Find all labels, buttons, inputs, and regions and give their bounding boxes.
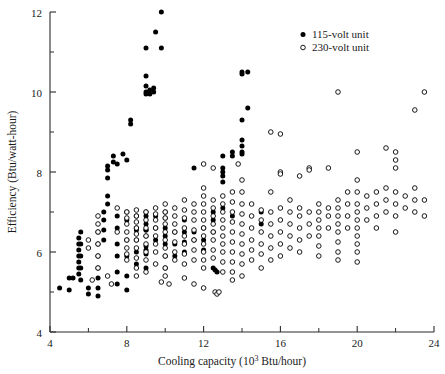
data-point — [221, 218, 226, 223]
data-point — [159, 280, 164, 285]
data-point — [182, 226, 187, 231]
data-point — [249, 226, 254, 231]
data-point — [240, 72, 245, 77]
data-point — [384, 186, 389, 191]
data-point — [153, 226, 158, 231]
data-point — [201, 202, 206, 207]
data-point — [134, 208, 139, 213]
data-point — [109, 282, 114, 287]
data-point — [201, 210, 206, 215]
data-point — [163, 254, 168, 259]
data-point — [144, 270, 149, 275]
data-point — [230, 220, 235, 225]
data-point — [240, 242, 245, 247]
data-point — [125, 252, 130, 257]
data-point — [365, 206, 370, 211]
data-point — [317, 202, 322, 207]
data-point — [230, 154, 235, 159]
data-point — [336, 240, 341, 245]
data-point — [297, 238, 302, 243]
data-point — [278, 172, 283, 177]
data-point — [144, 218, 149, 223]
data-point — [221, 250, 226, 255]
data-point — [153, 262, 158, 267]
x-tick-label: 16 — [275, 337, 287, 349]
data-point — [317, 254, 322, 259]
data-point — [201, 286, 206, 291]
data-point — [317, 244, 322, 249]
data-point — [105, 274, 110, 279]
data-point — [201, 242, 206, 247]
data-point — [76, 236, 81, 241]
data-point — [259, 218, 264, 223]
x-axis-title: Cooling capacity (103 Btu/hour) — [158, 354, 306, 368]
data-point — [355, 178, 360, 183]
data-point — [211, 238, 216, 243]
data-point — [173, 240, 178, 245]
data-point — [86, 238, 91, 243]
data-point — [240, 232, 245, 237]
data-point — [124, 274, 129, 279]
data-point — [259, 230, 264, 235]
data-point — [230, 260, 235, 265]
legend-open-circle-icon — [301, 45, 306, 50]
data-point — [307, 168, 312, 173]
data-point — [240, 252, 245, 257]
data-point — [297, 226, 302, 231]
data-point — [90, 278, 95, 283]
data-point — [78, 278, 83, 283]
data-point — [374, 214, 379, 219]
data-point — [240, 274, 245, 279]
data-point — [192, 238, 197, 243]
data-point — [384, 210, 389, 215]
data-point — [201, 266, 206, 271]
data-point — [403, 206, 408, 211]
data-point — [163, 230, 168, 235]
data-point — [153, 206, 158, 211]
data-point — [134, 266, 139, 271]
data-point — [384, 146, 389, 151]
data-point — [115, 214, 120, 219]
data-point — [269, 210, 274, 215]
data-point — [134, 220, 139, 225]
data-point — [249, 248, 254, 253]
data-point — [278, 206, 283, 211]
data-point — [96, 276, 101, 281]
data-point — [211, 256, 216, 261]
data-point — [211, 230, 216, 235]
data-point — [125, 230, 130, 235]
data-point — [192, 258, 197, 263]
data-point — [355, 260, 360, 265]
data-point — [173, 214, 178, 219]
data-point — [326, 166, 331, 171]
data-point — [336, 90, 341, 95]
data-point — [240, 178, 245, 183]
data-point — [173, 250, 178, 255]
data-point — [230, 210, 235, 215]
data-point — [163, 210, 168, 215]
data-point — [393, 230, 398, 235]
data-point — [201, 218, 206, 223]
data-point — [336, 198, 341, 203]
data-point — [201, 250, 206, 255]
data-point — [336, 230, 341, 235]
data-point — [221, 234, 226, 239]
data-point — [249, 214, 254, 219]
data-point — [144, 258, 149, 263]
data-point — [221, 242, 226, 247]
data-point — [134, 232, 139, 237]
data-point — [163, 246, 168, 251]
data-point — [236, 162, 241, 167]
legend-label: 115-volt unit — [312, 28, 369, 40]
data-point — [125, 216, 130, 221]
data-point — [182, 198, 187, 203]
data-point — [211, 206, 216, 211]
data-point — [374, 190, 379, 195]
data-point — [374, 202, 379, 207]
data-point — [96, 242, 101, 247]
data-point — [201, 258, 206, 263]
x-tick-label: 20 — [352, 337, 364, 349]
data-point — [393, 158, 398, 163]
data-point — [230, 190, 235, 195]
plot-canvas: 46810124812162024Cooling capacity (103 B… — [0, 0, 445, 374]
